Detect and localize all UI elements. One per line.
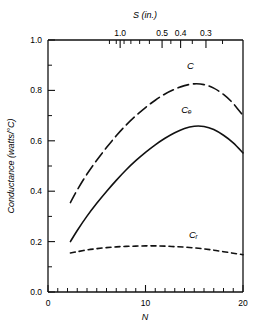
top-tick-label: 0.5 — [156, 28, 168, 38]
curve-Cr — [70, 246, 243, 255]
x-tick-label: 0 — [46, 298, 51, 308]
top-tick-label: 1.0 — [114, 28, 126, 38]
conductance-vs-n-plot: 0.00.20.40.60.81.0 01020 1.00.50.40.3 CC… — [0, 0, 263, 330]
y-axis-tick-labels: 0.00.20.40.60.81.0 — [30, 35, 42, 297]
y-tick-label: 0.4 — [30, 186, 42, 196]
top-tick-label: 0.3 — [200, 28, 212, 38]
x-axis-tick-labels: 01020 — [46, 298, 248, 308]
y-tick-label: 0.2 — [30, 237, 42, 247]
curve-label-C: C — [187, 60, 194, 71]
y-tick-label: 0.8 — [30, 85, 42, 95]
top-axis-tick-labels: 1.00.50.40.3 — [114, 28, 212, 38]
curve-labels: CCₑCᵣ — [181, 60, 199, 240]
top-tick-label: 0.4 — [175, 28, 187, 38]
curve-label-Cc: Cₑ — [181, 104, 192, 115]
top-axis-title: S (in.) — [133, 10, 157, 20]
plot-frame — [48, 40, 243, 292]
x-tick-label: 10 — [141, 298, 151, 308]
x-tick-label: 20 — [238, 298, 248, 308]
chart-figure: 0.00.20.40.60.81.0 01020 1.00.50.40.3 CC… — [0, 0, 263, 330]
x-axis-title: N — [142, 312, 149, 322]
curve-Cc — [70, 126, 243, 242]
x-axis-ticks — [48, 285, 243, 292]
top-axis-ticks — [109, 40, 222, 48]
y-axis-title: Conductance (watts/°C) — [6, 118, 16, 213]
y-tick-label: 1.0 — [30, 35, 42, 45]
y-tick-label: 0.0 — [30, 287, 42, 297]
curve-label-Cr: Cᵣ — [189, 229, 199, 240]
data-curves — [70, 84, 243, 255]
y-axis-ticks — [48, 40, 55, 292]
y-tick-label: 0.6 — [30, 136, 42, 146]
